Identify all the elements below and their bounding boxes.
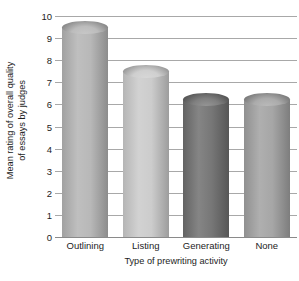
bar: [244, 93, 290, 237]
bar: [123, 65, 169, 237]
bar-body: [183, 100, 229, 237]
bar-top-ellipse: [62, 21, 108, 34]
y-axis-tick-label: 5: [30, 121, 52, 132]
bar-body: [244, 100, 290, 237]
bar-body: [62, 27, 108, 237]
x-axis-tick-label: Listing: [132, 240, 159, 251]
plot-area: [55, 16, 297, 237]
x-axis-line: [55, 237, 297, 238]
x-axis-label: Type of prewriting activity: [55, 256, 297, 266]
y-axis-tick-label: 4: [30, 143, 52, 154]
bar: [183, 93, 229, 237]
y-axis-tick-label: 10: [30, 11, 52, 22]
bar: [62, 21, 108, 237]
y-axis-tick-label: 0: [30, 232, 52, 243]
y-axis-label-line-1: Mean rating of overall quality: [6, 61, 18, 178]
y-axis-tick-label: 7: [30, 77, 52, 88]
gridline: [55, 16, 297, 17]
y-axis-label-line-2: of essays by judges: [17, 61, 29, 178]
bar-top-ellipse: [123, 65, 169, 78]
y-axis-label: Mean rating of overall quality of essays…: [0, 0, 34, 240]
y-axis-tick-label: 1: [30, 209, 52, 220]
bar-chart-figure: Mean rating of overall quality of essays…: [0, 0, 299, 281]
bar-body: [123, 71, 169, 237]
y-axis-tick-label: 6: [30, 99, 52, 110]
y-axis-tick-label: 9: [30, 33, 52, 44]
y-axis-tick-label: 2: [30, 187, 52, 198]
x-axis-tick-label: Outlining: [67, 240, 105, 251]
x-axis-tick-labels: OutliningListingGeneratingNone: [55, 240, 297, 256]
y-axis-tick-labels: 012345678910: [30, 0, 52, 250]
x-axis-tick-label: Generating: [183, 240, 230, 251]
y-axis-tick-label: 8: [30, 55, 52, 66]
y-axis-tick-label: 3: [30, 165, 52, 176]
x-axis-tick-label: None: [255, 240, 278, 251]
